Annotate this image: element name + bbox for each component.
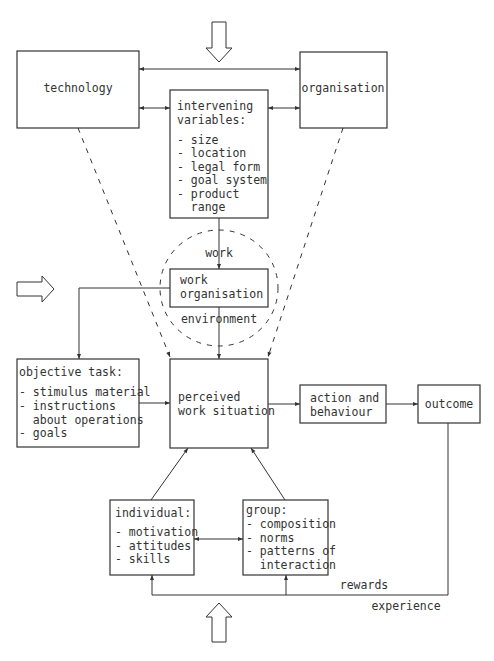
intervening-item: - legal form [177, 160, 260, 174]
experience-edge-label: experience [371, 599, 440, 613]
technology-label: technology [43, 81, 112, 95]
top-input-arrow-icon [206, 22, 232, 62]
work-organisation-label-2: organisation [180, 287, 263, 301]
intervening-variables-box: intervening variables: - size - location… [170, 90, 268, 218]
objective-task-title: objective task: [19, 365, 123, 379]
work-organisation-label-1: work [180, 273, 208, 287]
technology-box: technology [17, 51, 139, 128]
individual-box: individual: - motivation - attitudes - s… [110, 500, 198, 575]
objective-task-item: - goals [19, 426, 67, 440]
intervening-item: - goal system [177, 173, 267, 187]
outcome-box: outcome [418, 385, 480, 423]
individual-title: individual: [115, 506, 191, 520]
group-item: - patterns of [246, 544, 336, 558]
bottom-input-arrow-icon [206, 603, 232, 642]
individual-perceived-link [151, 448, 188, 500]
action-label-2: behaviour [310, 405, 372, 419]
work-edge-label: work [205, 246, 233, 260]
objective-task-item: - instructions [19, 399, 116, 413]
intervening-title-2: variables: [177, 113, 246, 127]
work-situation-diagram: technology organisation intervening vari… [0, 0, 494, 661]
perceived-work-situation-box: perceived work situation [170, 359, 275, 448]
objective-task-item: about operations [19, 413, 144, 427]
group-item: - norms [246, 531, 294, 545]
organisation-dashed-link [268, 128, 343, 357]
left-input-arrow-icon [17, 276, 54, 302]
intervening-item: - product [177, 187, 239, 201]
intervening-item: - size [177, 133, 219, 147]
group-perceived-link [251, 448, 285, 500]
action-label-1: action and [310, 391, 379, 405]
action-behaviour-box: action and behaviour [300, 385, 386, 423]
organisation-box: organisation [300, 52, 387, 128]
group-title: group: [246, 503, 288, 517]
group-item: - composition [246, 517, 336, 531]
individual-item: - motivation [115, 525, 198, 539]
outcome-label: outcome [425, 397, 474, 411]
perceived-label-2: work situation [178, 404, 275, 418]
environment-edge-label: environment [181, 312, 257, 326]
objective-task-box: objective task: - stimulus material - in… [17, 359, 151, 447]
intervening-item: - location [177, 146, 246, 160]
technology-dashed-link [78, 128, 170, 357]
individual-item: - skills [115, 552, 170, 566]
intervening-item: range [177, 200, 226, 214]
intervening-title-1: intervening [177, 99, 253, 113]
individual-item: - attitudes [115, 539, 191, 553]
organisation-label: organisation [301, 81, 384, 95]
perceived-label-1: perceived [178, 390, 240, 404]
group-item: interaction [246, 558, 336, 572]
objective-task-item: - stimulus material [19, 385, 151, 399]
group-box: group: - composition - norms - patterns … [243, 500, 336, 575]
rewards-edge-label: rewards [340, 578, 388, 592]
work-organisation-box: work organisation [170, 269, 268, 307]
